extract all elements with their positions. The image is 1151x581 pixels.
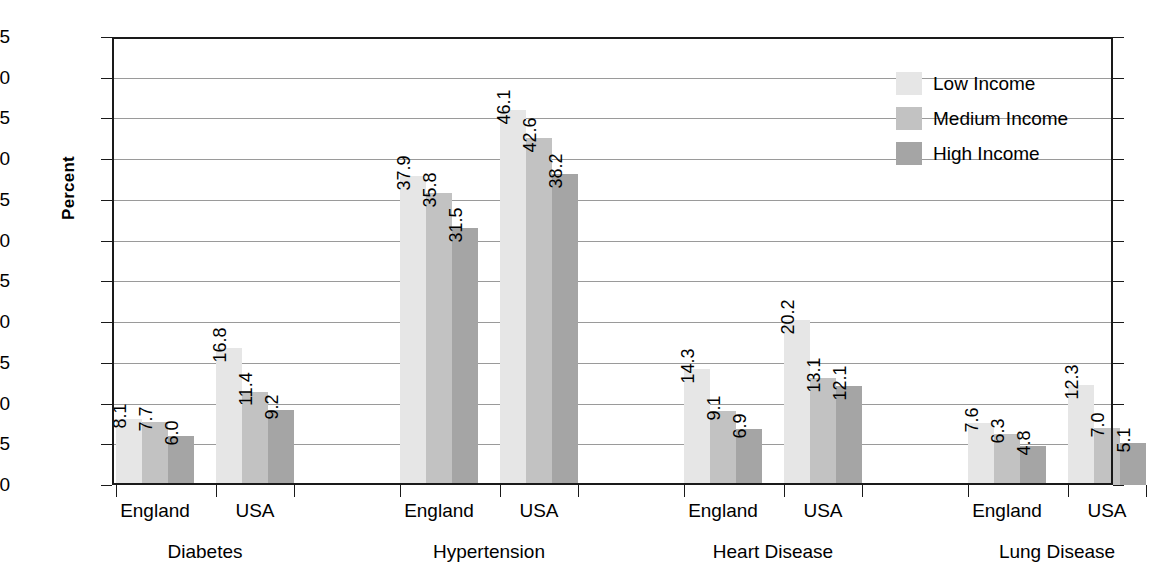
plot-border-top (112, 37, 1113, 39)
x-axis-tick (968, 485, 969, 497)
y-axis-tick-label: 50 (0, 68, 10, 87)
bar-value-label: 42.6 (521, 117, 539, 152)
x-axis-country-label: USA (195, 500, 315, 522)
y-axis-tick-right (1113, 404, 1124, 405)
x-axis-category-label: Heart Disease (663, 541, 883, 563)
x-axis-category-label: Hypertension (379, 541, 599, 563)
y-axis-tick-right (1113, 37, 1124, 38)
y-axis-tick-label: 55 (0, 27, 10, 46)
legend: Low IncomeMedium IncomeHigh Income (896, 66, 1068, 171)
x-axis-category-label: Lung Disease (947, 541, 1151, 563)
y-axis-tick (101, 118, 112, 119)
y-axis-tick (101, 78, 112, 79)
y-axis-tick (101, 485, 112, 486)
bar-value-label: 9.1 (705, 395, 723, 420)
legend-label: Low Income (933, 74, 1035, 93)
bar-value-label: 7.7 (137, 407, 155, 432)
x-axis-tick (216, 485, 217, 497)
y-axis-tick (101, 200, 112, 201)
bar: 37.9 (400, 176, 426, 485)
bar-value-label: 7.6 (963, 408, 981, 433)
bar: 5.1 (1120, 443, 1146, 485)
bar: 20.2 (784, 320, 810, 485)
x-axis-tick (400, 485, 401, 497)
bar: 38.2 (552, 174, 578, 485)
gridline (112, 363, 1113, 364)
bar-value-label: 11.4 (237, 372, 255, 406)
y-axis-tick-right (1113, 118, 1124, 119)
bar-value-label: 12.1 (831, 366, 849, 401)
bar-value-label: 20.2 (779, 300, 797, 335)
y-axis-tick-right (1113, 281, 1124, 282)
legend-label: High Income (933, 144, 1040, 163)
y-axis-tick-right (1113, 159, 1124, 160)
bar-value-label: 6.0 (163, 421, 181, 446)
gridline (112, 281, 1113, 282)
x-axis-country-label: USA (763, 500, 883, 522)
y-axis-tick-label: 10 (0, 394, 10, 413)
bar-value-label: 6.9 (731, 413, 749, 438)
bar: 16.8 (216, 348, 242, 485)
y-axis-tick (101, 37, 112, 38)
bar-value-label: 35.8 (421, 173, 439, 208)
gridline (112, 241, 1113, 242)
plot-border-left (112, 37, 114, 485)
bar: 42.6 (526, 138, 552, 485)
y-axis-tick (101, 281, 112, 282)
bar-value-label: 16.8 (211, 328, 229, 363)
x-axis-tick (1068, 485, 1069, 497)
x-axis-tick (578, 485, 579, 497)
gridline (112, 322, 1113, 323)
legend-item: Low Income (896, 66, 1068, 101)
bar-value-label: 5.1 (1115, 428, 1133, 453)
y-axis-tick-right (1113, 322, 1124, 323)
x-axis-tick (862, 485, 863, 497)
x-axis-tick (1146, 485, 1147, 497)
y-axis-tick-label: 25 (0, 271, 10, 290)
legend-swatch (896, 72, 922, 95)
y-axis-tick-label: 15 (0, 353, 10, 372)
legend-swatch (896, 142, 922, 165)
bar: 14.3 (684, 369, 710, 485)
y-axis-tick (101, 363, 112, 364)
bar: 12.1 (836, 386, 862, 485)
y-axis-tick-right (1113, 363, 1124, 364)
bar-value-label: 9.2 (263, 395, 281, 420)
y-axis-tick-label: 5 (0, 434, 10, 453)
x-axis-category-label: Diabetes (95, 541, 315, 563)
y-axis-tick-right (1113, 241, 1124, 242)
plot-border-right (1111, 37, 1113, 485)
legend-label: Medium Income (933, 109, 1068, 128)
y-axis-tick-right (1113, 485, 1124, 486)
y-axis-tick-label: 35 (0, 190, 10, 209)
y-axis-title: Percent (59, 123, 79, 253)
x-axis-tick (500, 485, 501, 497)
y-axis-tick-right (1113, 200, 1124, 201)
bar-value-label: 37.9 (395, 156, 413, 191)
x-axis-tick (294, 485, 295, 497)
bar: 46.1 (500, 110, 526, 486)
plot-border-bottom (112, 483, 1113, 485)
bar-value-label: 14.3 (679, 348, 697, 383)
y-axis-tick (101, 241, 112, 242)
bar: 31.5 (452, 228, 478, 485)
bar: 6.0 (168, 436, 194, 485)
x-axis-tick (116, 485, 117, 497)
bar-value-label: 38.2 (547, 153, 565, 188)
bar-value-label: 4.8 (1015, 430, 1033, 455)
bar-value-label: 31.5 (447, 208, 465, 243)
bar-value-label: 6.3 (989, 418, 1007, 443)
legend-item: Medium Income (896, 101, 1068, 136)
legend-swatch (896, 107, 922, 130)
bar-value-label: 12.3 (1063, 364, 1081, 399)
y-axis-tick-label: 45 (0, 108, 10, 127)
x-axis-country-label: USA (479, 500, 599, 522)
x-axis-country-label: USA (1047, 500, 1151, 522)
bar: 6.9 (736, 429, 762, 485)
y-axis-tick (101, 322, 112, 323)
bar-value-label: 7.0 (1089, 412, 1107, 437)
bar-value-label: 13.1 (805, 358, 823, 393)
y-axis-tick-label: 30 (0, 231, 10, 250)
y-axis-tick-right (1113, 78, 1124, 79)
